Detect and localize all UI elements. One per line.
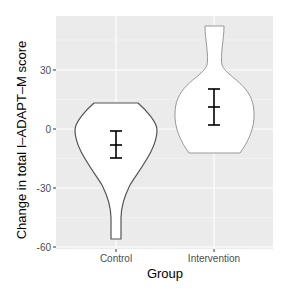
y-tick-label-0: 0	[45, 124, 51, 135]
y-tick-label-minus-30: -30	[37, 183, 52, 194]
violin-chart: 30 0 -30 -60 Control Intervention Group …	[0, 0, 286, 295]
y-axis-ticks	[53, 70, 56, 247]
y-tick-label-30: 30	[40, 65, 52, 76]
x-tick-label-control: Control	[100, 253, 132, 264]
y-tick-label-minus-60: -60	[37, 242, 52, 253]
x-axis-ticks	[116, 249, 214, 252]
x-tick-label-intervention: Intervention	[188, 253, 240, 264]
y-axis-title: Change in total I–ADAPT–M score	[14, 41, 29, 240]
x-axis-title: Group	[147, 266, 183, 281]
